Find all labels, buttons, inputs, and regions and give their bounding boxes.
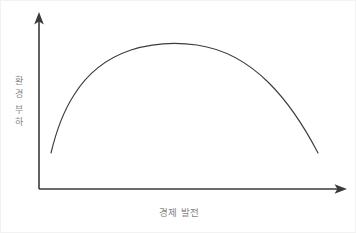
x-axis-title: 경제 발전 bbox=[1, 205, 356, 219]
environmental-load-curve bbox=[51, 43, 318, 153]
y-axis-title-char-4: 하 bbox=[15, 116, 23, 129]
y-axis-title-char-3: 부 bbox=[15, 104, 23, 117]
environmental-kuznets-curve-figure: 환 경 부 하 경제 발전 bbox=[0, 0, 356, 233]
plot-canvas bbox=[1, 1, 356, 233]
y-axis-title-char-2: 경 bbox=[15, 88, 23, 101]
y-axis-title: 환 경 부 하 bbox=[11, 75, 27, 129]
y-axis-title-char-1: 환 bbox=[15, 75, 23, 88]
